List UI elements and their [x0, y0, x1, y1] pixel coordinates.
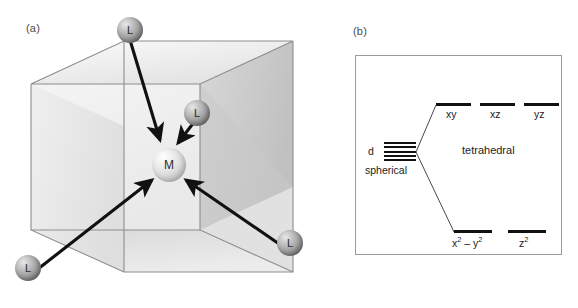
ligand-label-bottom-left: L — [25, 262, 31, 274]
ligand-label-top: L — [127, 24, 133, 36]
ligand-sphere-bottom-left: L — [15, 255, 41, 281]
metal-center-label: M — [164, 158, 174, 172]
panel-b-label: (b) — [353, 25, 367, 37]
d-level-line-5 — [384, 159, 416, 161]
ligand-label-right: L — [194, 107, 200, 119]
tetrahedral-field-label: tetrahedral — [462, 144, 515, 156]
energy-level-label-xz: xz — [490, 108, 501, 120]
figure-tetrahedral-crystal-field: (a) — [0, 0, 578, 308]
energy-level-xz — [480, 103, 515, 106]
d-level-line-3 — [384, 151, 416, 153]
energy-level-label-yz: yz — [534, 108, 545, 120]
x2y2-sup2: 2 — [478, 235, 482, 244]
connector-to-upper-set — [416, 105, 436, 152]
energy-level-z2 — [508, 230, 546, 233]
ligand-sphere-bottom-right: L — [277, 230, 303, 256]
cube-stage: M L L L L — [0, 0, 340, 308]
x2y2-mid: – y — [461, 237, 478, 249]
metal-center-sphere: M — [152, 148, 186, 182]
d-level-line-1 — [384, 142, 416, 144]
ligand-sphere-top: L — [117, 17, 143, 43]
ligand-sphere-right: L — [184, 100, 210, 126]
z2-sup1: 2 — [524, 235, 528, 244]
energy-level-label-x2-y2: x2 – y2 — [452, 235, 483, 249]
energy-level-yz — [524, 103, 559, 106]
d-level-line-2 — [384, 146, 416, 148]
energy-level-label-z2: z2 — [519, 235, 528, 249]
d-level-line-4 — [384, 155, 416, 157]
connector-to-lower-set — [416, 152, 454, 232]
energy-diagram-frame: d spherical xy xz yz x2 – y2 z2 tetrahed… — [355, 55, 562, 255]
panel-a-tetrahedral-geometry: (a) — [0, 0, 340, 308]
d-orbital-label: d — [368, 145, 374, 157]
energy-level-label-xy: xy — [446, 108, 457, 120]
energy-level-x2-y2 — [454, 230, 492, 233]
ligand-label-bottom-right: L — [287, 237, 293, 249]
energy-level-xy — [436, 103, 471, 106]
spherical-field-label: spherical — [365, 164, 407, 176]
spherical-d-degenerate-levels — [384, 142, 416, 161]
panel-b-energy-diagram: (b) d spherical xy xz yz — [340, 0, 578, 308]
